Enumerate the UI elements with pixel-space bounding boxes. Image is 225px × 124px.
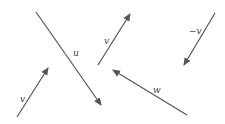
vector-label: v: [104, 36, 109, 46]
vector-diagram: vuv−vw: [0, 0, 225, 124]
arrow-icon: [113, 70, 187, 115]
vector-w: w: [113, 70, 187, 115]
arrow-icon: [36, 12, 101, 105]
vector-v-top-middle: v: [98, 14, 130, 65]
arrow-icon: [17, 68, 48, 117]
vector-neg-v: −v: [184, 13, 215, 65]
vector-label: u: [73, 48, 79, 58]
vector-label: −v: [189, 26, 202, 36]
vector-label: v: [20, 94, 25, 104]
vector-v-bottom-left: v: [17, 68, 48, 117]
vector-u: u: [36, 12, 101, 105]
vector-diagram-svg: vuv−vw: [0, 0, 225, 124]
arrow-icon: [184, 13, 215, 65]
vector-label: w: [153, 85, 161, 95]
arrow-icon: [98, 14, 130, 65]
